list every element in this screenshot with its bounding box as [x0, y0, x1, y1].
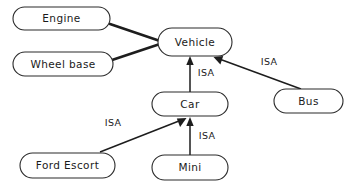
node-mini[interactable]: Mini	[152, 155, 228, 180]
node-label-engine: Engine	[42, 12, 80, 24]
link-bus-isa-vehicle: ISA	[214, 56, 302, 90]
arrowhead-icon	[186, 117, 193, 126]
attribute-links	[110, 24, 160, 60]
isa-label-car-vehicle: ISA	[198, 67, 215, 78]
node-label-wheel-base: Wheel base	[30, 58, 95, 70]
isa-label-fordescort-car: ISA	[105, 117, 122, 128]
node-vehicle[interactable]: Vehicle	[158, 28, 232, 56]
node-label-mini: Mini	[178, 161, 201, 173]
link-mini-isa-car: ISA	[186, 117, 215, 155]
node-label-bus: Bus	[298, 95, 319, 107]
arrowhead-icon	[177, 118, 187, 127]
node-label-ford-escort: Ford Escort	[36, 159, 99, 171]
link-car-isa-vehicle: ISA	[186, 56, 214, 92]
isa-label-bus-vehicle: ISA	[261, 56, 278, 67]
node-car[interactable]: Car	[152, 92, 228, 116]
link-engine-vehicle	[110, 24, 160, 41]
diagram-canvas: ISA ISA ISA ISA Engine	[0, 0, 363, 189]
node-engine[interactable]: Engine	[13, 7, 110, 30]
isa-label-mini-car: ISA	[199, 130, 216, 141]
nodes: Engine Wheel base Vehicle Bus Car Ford E	[13, 7, 343, 180]
node-wheel-base[interactable]: Wheel base	[13, 52, 113, 76]
node-ford-escort[interactable]: Ford Escort	[20, 153, 115, 178]
link-wheelbase-vehicle	[112, 44, 160, 60]
arrowhead-icon	[214, 56, 224, 65]
vehicle-isa-diagram: ISA ISA ISA ISA Engine	[0, 0, 363, 189]
arrowhead-icon	[186, 56, 193, 65]
node-bus[interactable]: Bus	[274, 89, 343, 113]
node-label-vehicle: Vehicle	[175, 36, 215, 48]
link-fordescort-isa-car: ISA	[100, 117, 187, 153]
node-label-car: Car	[180, 98, 200, 110]
